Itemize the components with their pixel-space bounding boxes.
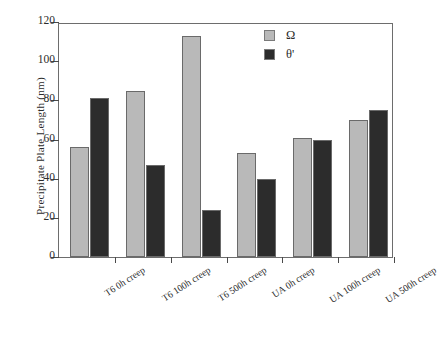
- y-tick-label: 60: [44, 132, 56, 144]
- y-tick-label: 80: [44, 92, 56, 104]
- bar-group: [126, 24, 166, 257]
- x-axis-label: UA 0h creep: [270, 264, 317, 300]
- x-tick-mark: [394, 257, 395, 263]
- x-axis-label: UA 500h creep: [383, 264, 438, 305]
- bar: [349, 120, 368, 257]
- bar: [257, 179, 276, 257]
- y-tick-label: 20: [44, 210, 56, 222]
- bar-group: [182, 24, 222, 257]
- bar: [202, 210, 221, 257]
- legend-item-theta-prime: θ': [264, 46, 374, 62]
- x-axis-label: T6 0h creep: [102, 264, 146, 298]
- bar-group: [70, 24, 110, 257]
- legend-label-omega: Ω: [286, 29, 295, 42]
- bar: [369, 110, 388, 257]
- x-axis-label: UA 100h creep: [328, 264, 383, 305]
- bar: [293, 138, 312, 257]
- chart-legend: Ω θ': [264, 27, 374, 65]
- legend-item-omega: Ω: [264, 27, 374, 43]
- bar: [146, 165, 165, 257]
- y-tick-label: 0: [49, 249, 55, 261]
- legend-swatch-theta-prime: [264, 49, 275, 60]
- y-tick-label: 40: [44, 171, 56, 183]
- plot-area: 020406080100120 Ω θ': [58, 23, 393, 258]
- bar: [126, 91, 145, 257]
- x-axis-labels: T6 0h creepT6 100h creepT6 500h creepUA …: [58, 258, 393, 345]
- bar: [313, 140, 332, 258]
- legend-label-theta-prime: θ': [286, 48, 294, 61]
- bar: [90, 98, 109, 257]
- bar: [237, 153, 256, 257]
- y-tick-label: 100: [38, 53, 55, 65]
- bar: [182, 36, 201, 257]
- legend-swatch-omega: [264, 30, 275, 41]
- bar: [70, 147, 89, 257]
- x-axis-label: T6 500h creep: [216, 264, 268, 303]
- y-tick-label: 120: [38, 14, 55, 26]
- x-axis-label: T6 100h creep: [160, 264, 212, 303]
